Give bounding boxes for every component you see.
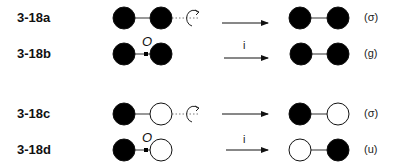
atom-filled [113,43,135,65]
atom-filled [150,43,172,65]
atom-filled [327,43,349,65]
atom-filled [327,139,349,161]
inversion-center-dot [144,52,148,56]
inversion-center-dot [144,148,148,152]
atom-filled [113,7,135,29]
atom-filled [290,43,312,65]
symmetry-label-3-18d: (u) [364,143,377,155]
rotation-icon [172,106,200,122]
inversion-center-label: O [142,34,152,49]
atom-filled [113,103,135,125]
row-3-18c-after-molecule [289,103,349,125]
row-3-18b-after-molecule [290,43,349,65]
atom-open [150,103,172,125]
atom-open [327,103,349,125]
rotation-icon [172,10,200,26]
atom-open [289,139,311,161]
row-3-18c-before-molecule [113,103,172,125]
symmetry-label-3-18c: (σ) [364,107,378,119]
operation-label: i [243,133,245,145]
symmetry-label-3-18b: (g) [364,47,377,59]
atom-filled [113,139,135,161]
atom-filled [150,7,172,29]
atom-filled [289,7,311,29]
row-3-18a-after-molecule [289,7,349,29]
atom-filled [289,103,311,125]
atom-filled [327,7,349,29]
inversion-center-label: O [142,130,152,145]
atom-open [150,139,172,161]
row-3-18d-after-molecule [289,139,349,161]
symmetry-label-3-18a: (σ) [364,11,378,23]
molecule-diagram [0,0,395,168]
row-3-18a-before-molecule [113,7,172,29]
operation-label: i [243,39,245,51]
